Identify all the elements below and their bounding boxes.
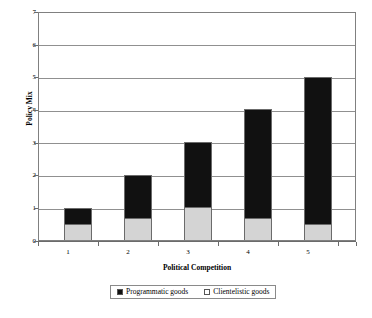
x-tick-mark-5 [338, 242, 339, 246]
x-tick-mark-4 [278, 242, 279, 246]
legend-label-programmatic: Programmatic goods [126, 288, 188, 296]
bar-stack-4 [244, 109, 272, 240]
y-tick-label-0: 0 [16, 238, 36, 245]
legend-entry-programmatic: Programmatic goods [117, 288, 188, 296]
y-tick-label-4: 4 [16, 107, 36, 114]
bar-segment-programmatic-2 [124, 175, 152, 218]
x-tick-mark-6 [356, 242, 357, 246]
bar-segment-clientelistic-5 [304, 224, 332, 240]
bar-segment-programmatic-4 [244, 109, 272, 218]
chart-legend: Programmatic goods Clientelistic goods [110, 285, 276, 299]
bar-segment-programmatic-3 [184, 142, 212, 207]
x-tick-mark-0 [38, 242, 39, 246]
y-tick-label-6: 6 [16, 42, 36, 49]
y-tick-label-5: 5 [16, 74, 36, 81]
bar-stack-5 [304, 77, 332, 240]
x-axis-title: Political Competition [38, 263, 356, 272]
legend-entry-clientelistic: Clientelistic goods [204, 288, 269, 296]
x-tick-label-5: 5 [296, 248, 320, 256]
x-tick-label-2: 2 [116, 248, 140, 256]
plot-area [38, 12, 356, 241]
bar-stack-3 [184, 142, 212, 240]
bar-stack-1 [64, 208, 92, 240]
x-tick-mark-1 [98, 242, 99, 246]
bar-stack-2 [124, 175, 152, 240]
legend-swatch-programmatic-icon [117, 289, 123, 295]
bar-segment-programmatic-5 [304, 77, 332, 224]
bar-segment-clientelistic-1 [64, 224, 92, 240]
x-tick-label-4: 4 [236, 248, 260, 256]
x-tick-mark-3 [218, 242, 219, 246]
stacked-bar-chart: Policy Mix 7 6 5 4 3 2 1 0 [0, 0, 372, 318]
gridline-6 [39, 45, 355, 46]
y-tick-label-7: 7 [16, 9, 36, 16]
bar-segment-clientelistic-3 [184, 207, 212, 240]
x-tick-label-1: 1 [56, 248, 80, 256]
x-tick-mark-2 [158, 242, 159, 246]
legend-swatch-clientelistic-icon [204, 289, 210, 295]
y-tick-label-1: 1 [16, 205, 36, 212]
y-tick-label-3: 3 [16, 140, 36, 147]
legend-label-clientelistic: Clientelistic goods [213, 288, 269, 296]
x-tick-label-3: 3 [176, 248, 200, 256]
y-tick-label-2: 2 [16, 172, 36, 179]
bar-segment-clientelistic-2 [124, 218, 152, 240]
x-axis-line [38, 241, 356, 242]
bar-segment-programmatic-1 [64, 208, 92, 224]
bar-segment-clientelistic-4 [244, 218, 272, 240]
